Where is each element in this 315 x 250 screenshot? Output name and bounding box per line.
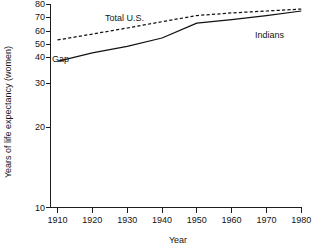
- y-tick-label-60: 60: [35, 26, 45, 36]
- x-tick-label-1910: 1910: [47, 215, 67, 225]
- x-tick-label-1930: 1930: [117, 215, 137, 225]
- y-tick-marks: [46, 5, 51, 208]
- y-tick-label-80: 80: [35, 0, 45, 9]
- y-tick-label-40: 40: [35, 52, 45, 62]
- indians-label: Indians: [255, 30, 285, 40]
- y-tick-label-70: 70: [35, 12, 45, 22]
- y-tick-label-10: 10: [35, 203, 45, 213]
- x-tick-label-1920: 1920: [82, 215, 102, 225]
- x-tick-label-1960: 1960: [222, 215, 242, 225]
- y-tick-label-30: 30: [35, 78, 45, 88]
- x-tick-marks: [58, 208, 302, 213]
- y-tick-label-50: 50: [35, 39, 45, 49]
- y-tick-label-20: 20: [35, 122, 45, 132]
- x-tick-label-1940: 1940: [152, 215, 172, 225]
- x-tick-label-1950: 1950: [187, 215, 207, 225]
- x-tick-label-1980: 1980: [291, 215, 311, 225]
- gap-label: Gap: [52, 54, 69, 64]
- y-axis-title: Years of life expectancy (women): [3, 46, 13, 178]
- line-chart: Years of life expectancy (women) 80 70 6…: [0, 0, 315, 250]
- x-axis-title: Year: [169, 235, 187, 245]
- x-tick-label-1970: 1970: [256, 215, 276, 225]
- chart-figure: Years of life expectancy (women) 80 70 6…: [0, 0, 315, 250]
- total-us-label: Total U.S.: [105, 13, 144, 23]
